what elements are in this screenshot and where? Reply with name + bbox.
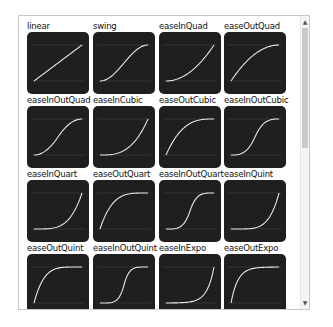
easing-curve-plot[interactable] <box>93 254 155 310</box>
curve-icon <box>27 180 89 242</box>
easing-label: easeInQuart <box>27 168 91 180</box>
easing-label: easeInOutQuad <box>27 94 91 106</box>
easing-label: linear <box>27 20 91 32</box>
easing-curve-plot[interactable] <box>27 180 89 242</box>
easing-curve-plot[interactable] <box>93 32 155 94</box>
easing-curve-plot[interactable] <box>159 254 221 310</box>
easing-cell-easeinexpo[interactable]: easeInExpo <box>159 242 223 310</box>
scrollbar-thumb[interactable] <box>302 28 308 148</box>
easing-cell-easeinoutquint[interactable]: easeInOutQuint <box>93 242 157 310</box>
easing-curve-plot[interactable] <box>159 180 221 242</box>
easing-cell-easeinoutquad[interactable]: easeInOutQuad <box>27 94 91 168</box>
easing-cell-swing[interactable]: swing <box>93 20 157 94</box>
curve-icon <box>93 254 155 310</box>
easing-cell-easeinoutcubic[interactable]: easeInOutCubic <box>224 94 288 168</box>
easing-cell-easeinquart[interactable]: easeInQuart <box>27 168 91 242</box>
easing-curve-plot[interactable] <box>224 106 286 168</box>
easing-label: swing <box>93 20 157 32</box>
curve-icon <box>93 106 155 168</box>
easing-cell-easeoutexpo[interactable]: easeOutExpo <box>224 242 288 310</box>
easing-label: easeOutQuint <box>27 242 91 254</box>
curve-icon <box>224 254 286 310</box>
easing-label: easeInExpo <box>159 242 223 254</box>
vertical-scrollbar[interactable]: ▲ ▼ <box>300 16 309 309</box>
easing-label: easeInQuad <box>159 20 223 32</box>
curve-icon <box>224 180 286 242</box>
easing-cell-easeinquint[interactable]: easeInQuint <box>224 168 288 242</box>
scroll-down-icon[interactable]: ▼ <box>301 298 309 308</box>
easing-curve-plot[interactable] <box>159 32 221 94</box>
easing-curve-plot[interactable] <box>27 106 89 168</box>
curve-icon <box>27 254 89 310</box>
easing-label: easeInOutQuint <box>93 242 157 254</box>
easing-cell-easeinoutquart[interactable]: easeInOutQuart <box>159 168 223 242</box>
scroll-up-icon[interactable]: ▲ <box>301 17 309 27</box>
curve-icon <box>224 32 286 94</box>
easing-cell-easeinquad[interactable]: easeInQuad <box>159 20 223 94</box>
easing-cell-easeincubic[interactable]: easeInCubic <box>93 94 157 168</box>
easing-curve-plot[interactable] <box>93 106 155 168</box>
curve-icon <box>224 106 286 168</box>
easing-label: easeOutCubic <box>159 94 223 106</box>
easing-cell-easeoutcubic[interactable]: easeOutCubic <box>159 94 223 168</box>
curve-icon <box>93 180 155 242</box>
easing-curve-plot[interactable] <box>224 180 286 242</box>
easing-cell-easeoutquart[interactable]: easeOutQuart <box>93 168 157 242</box>
easing-cell-easeoutquad[interactable]: easeOutQuad <box>224 20 288 94</box>
curve-icon <box>159 254 221 310</box>
easing-curve-plot[interactable] <box>27 254 89 310</box>
easing-cell-linear[interactable]: linear <box>27 20 91 94</box>
easing-curve-plot[interactable] <box>224 32 286 94</box>
curve-icon <box>27 106 89 168</box>
easing-label: easeOutQuad <box>224 20 288 32</box>
easing-curve-plot[interactable] <box>27 32 89 94</box>
curve-icon <box>27 32 89 94</box>
easing-label: easeOutExpo <box>224 242 288 254</box>
easing-label: easeInOutQuart <box>159 168 223 180</box>
curve-icon <box>159 106 221 168</box>
easing-curve-plot[interactable] <box>93 180 155 242</box>
curve-icon <box>159 180 221 242</box>
curve-icon <box>159 32 221 94</box>
easing-label: easeOutQuart <box>93 168 157 180</box>
easing-label: easeInCubic <box>93 94 157 106</box>
easing-label: easeInQuint <box>224 168 288 180</box>
easing-curve-plot[interactable] <box>159 106 221 168</box>
easing-cell-easeoutquint[interactable]: easeOutQuint <box>27 242 91 310</box>
easing-label: easeInOutCubic <box>224 94 288 106</box>
easing-curve-plot[interactable] <box>224 254 286 310</box>
curve-icon <box>93 32 155 94</box>
easing-gallery-panel: linearswingeaseInQuadeaseOutQuadeaseInOu… <box>18 15 310 310</box>
